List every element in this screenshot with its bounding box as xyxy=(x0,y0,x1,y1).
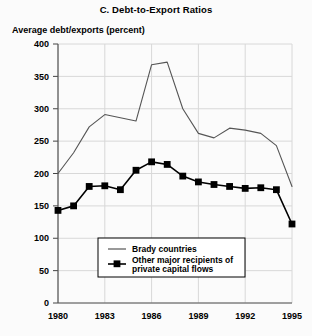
data-point-marker xyxy=(117,186,124,193)
data-point-marker xyxy=(101,182,108,189)
series-line-0 xyxy=(58,62,292,186)
x-axis-ticks: 198019831986198919921995 xyxy=(48,311,302,321)
chart-svg: 050100150200250300350400 198019831986198… xyxy=(0,38,312,336)
data-point-marker xyxy=(164,161,171,168)
chart-title: C. Debt-to-Export Ratios xyxy=(0,4,312,15)
legend-label-other-line2: private capital flows xyxy=(132,264,214,274)
y-axis-label: Average debt/exports (percent) xyxy=(12,25,145,35)
x-tick-label: 1992 xyxy=(235,311,255,321)
x-tick-label: 1986 xyxy=(142,311,162,321)
legend-label-brady: Brady countries xyxy=(132,244,197,254)
plot-area: 050100150200250300350400 198019831986198… xyxy=(0,38,312,336)
y-tick-label: 400 xyxy=(34,39,49,49)
y-tick-label: 350 xyxy=(34,72,49,82)
y-tick-label: 50 xyxy=(39,266,49,276)
y-tick-label: 250 xyxy=(34,136,49,146)
data-point-marker xyxy=(70,202,77,209)
data-point-marker xyxy=(148,158,155,165)
x-tick-label: 1983 xyxy=(95,311,115,321)
data-point-marker xyxy=(289,221,296,228)
y-tick-label: 150 xyxy=(34,201,49,211)
x-tick-label: 1995 xyxy=(282,311,302,321)
y-tick-label: 300 xyxy=(34,104,49,114)
chart-legend: Brady countriesOther major recipients of… xyxy=(98,238,245,277)
series-line-1 xyxy=(58,162,292,224)
data-point-marker xyxy=(86,183,93,190)
data-point-marker xyxy=(226,183,233,190)
data-point-marker xyxy=(242,185,249,192)
data-point-marker xyxy=(55,207,62,214)
data-point-marker xyxy=(179,173,186,180)
data-point-marker xyxy=(257,184,264,191)
data-series-layer xyxy=(55,62,296,227)
y-tick-label: 200 xyxy=(34,169,49,179)
y-tick-label: 100 xyxy=(34,233,49,243)
chart-figure: C. Debt-to-Export Ratios Average debt/ex… xyxy=(0,0,312,336)
y-tick-label: 0 xyxy=(44,298,49,308)
data-point-marker xyxy=(273,186,280,193)
data-point-marker xyxy=(133,167,140,174)
x-tick-label: 1989 xyxy=(188,311,208,321)
data-point-marker xyxy=(195,179,202,186)
data-point-marker xyxy=(211,181,218,188)
x-tick-label: 1980 xyxy=(48,311,68,321)
y-axis-ticks: 050100150200250300350400 xyxy=(34,39,58,308)
